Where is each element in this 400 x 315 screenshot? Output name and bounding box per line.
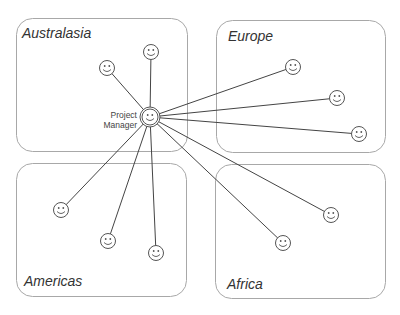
region-label-europe: Europe — [228, 28, 273, 44]
team-member-smiley-icon — [100, 61, 115, 76]
region-label-australasia: Australasia — [21, 25, 91, 41]
diagram-canvas: Australasia Europe Americas Africa — [0, 0, 400, 315]
project-manager-label-line1: Project — [111, 110, 138, 120]
team-member-smiley-icon — [324, 208, 339, 223]
team-member-smiley-icon — [144, 45, 159, 60]
connector-line — [150, 117, 359, 134]
team-member-smiley-icon — [330, 91, 345, 106]
region-label-africa: Africa — [226, 276, 263, 292]
team-member-smiley-icon — [54, 203, 69, 218]
connector-line — [108, 117, 150, 241]
connector-line — [150, 117, 331, 215]
connector-line — [150, 117, 156, 253]
team-member-smiley-icon — [149, 246, 164, 261]
team-member-smiley-icon — [276, 236, 291, 251]
team-member-smiley-icon — [286, 60, 301, 75]
team-member-smiley-icon — [352, 127, 367, 142]
region-label-americas: Americas — [23, 273, 82, 289]
team-member-smiley-icon — [101, 234, 116, 249]
project-manager-label-line2: Manager — [103, 120, 137, 130]
project-manager-hub — [140, 107, 160, 127]
